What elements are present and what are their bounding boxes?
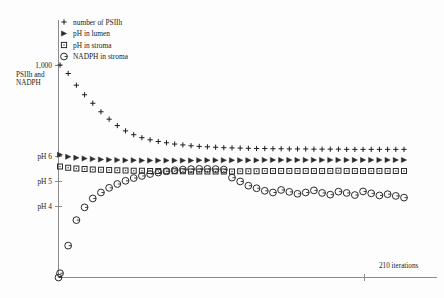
marker-triangle-right	[279, 157, 284, 162]
legend-item-0: number of PSIIh	[61, 18, 122, 27]
marker-triangle-right	[238, 158, 243, 163]
marker-circle	[311, 187, 318, 194]
marker-plus	[98, 109, 103, 114]
legend-label-2: pH in stroma	[73, 41, 112, 50]
marker-triangle-right	[344, 157, 349, 162]
marker-square	[279, 169, 284, 174]
marker-circle	[360, 188, 367, 195]
marker-plus	[328, 147, 333, 152]
marker-square	[115, 168, 120, 173]
marker-triangle-right	[336, 157, 341, 162]
marker-square	[230, 169, 235, 174]
marker-circle	[229, 174, 236, 181]
y-tick-label-1: pH 6	[37, 152, 52, 161]
marker-triangle-right	[369, 157, 374, 162]
marker-square	[328, 169, 333, 174]
marker-plus	[401, 147, 406, 152]
marker-plus	[238, 145, 243, 150]
marker-circle	[368, 190, 375, 197]
marker-plus	[393, 147, 398, 152]
marker-plus	[205, 144, 210, 149]
marker-triangle-right	[172, 158, 177, 163]
scatter-chart: 1,000pH 6pH 5pH 4 PSIIh and NADPH 210 it…	[0, 0, 444, 298]
marker-plus	[319, 147, 324, 152]
marker-triangle-right	[221, 158, 226, 163]
marker-triangle-right	[74, 155, 79, 160]
marker-circle	[73, 217, 80, 224]
marker-square	[98, 167, 103, 172]
marker-square	[369, 169, 374, 174]
marker-circle	[130, 175, 137, 182]
marker-square	[246, 169, 251, 174]
marker-plus	[336, 147, 341, 152]
marker-triangle-right	[352, 157, 357, 162]
marker-square	[385, 169, 390, 174]
marker-circle	[245, 182, 252, 189]
marker-triangle-right	[139, 158, 144, 163]
marker-square	[344, 169, 349, 174]
marker-triangle-right	[213, 158, 218, 163]
marker-circle	[384, 191, 391, 198]
marker-plus	[61, 19, 66, 24]
y-tick-label-3: pH 4	[37, 202, 52, 211]
marker-plus	[279, 146, 284, 151]
marker-plus	[213, 145, 218, 150]
marker-plus	[344, 147, 349, 152]
marker-circle	[98, 189, 105, 196]
marker-triangle-right	[319, 157, 324, 162]
marker-square	[90, 167, 95, 172]
legend-item-2: pH in stroma	[61, 41, 112, 50]
marker-circle	[351, 192, 358, 199]
y-tick-label-2: pH 5	[37, 177, 52, 186]
marker-plus	[74, 83, 79, 88]
marker-plus	[131, 132, 136, 137]
marker-triangle-right	[262, 157, 267, 162]
marker-plus	[229, 145, 234, 150]
marker-triangle-right	[82, 156, 87, 161]
marker-circle	[81, 204, 88, 211]
marker-triangle-right	[246, 158, 251, 163]
marker-triangle-right	[66, 154, 71, 159]
marker-square	[311, 169, 316, 174]
marker-square	[254, 169, 259, 174]
marker-circle	[57, 270, 64, 277]
marker-triangle-right	[107, 157, 112, 162]
marker-triangle-right	[303, 157, 308, 162]
marker-plus	[82, 92, 87, 97]
marker-square	[287, 169, 292, 174]
marker-plus	[172, 141, 177, 146]
marker-plus	[115, 123, 120, 128]
marker-triangle-right	[98, 157, 103, 162]
marker-square	[66, 165, 71, 170]
series-nadph-in-stroma	[57, 166, 408, 277]
marker-circle	[61, 53, 68, 60]
marker-triangle-right	[131, 158, 136, 163]
legend-item-3: NADPH in stroma	[61, 52, 129, 61]
marker-square	[303, 169, 308, 174]
marker-circle	[253, 185, 260, 192]
chart-root: 1,000pH 6pH 5pH 4 PSIIh and NADPH 210 it…	[0, 0, 444, 298]
marker-circle	[286, 188, 293, 195]
marker-triangle-right	[156, 158, 161, 163]
marker-plus	[66, 71, 71, 76]
marker-triangle-right	[295, 157, 300, 162]
marker-plus	[156, 139, 161, 144]
marker-plus	[352, 147, 357, 152]
marker-square	[270, 169, 275, 174]
marker-circle	[114, 181, 121, 188]
marker-plus	[385, 147, 390, 152]
y-axis-caption-line1: PSIIh and	[16, 71, 45, 79]
marker-square	[61, 42, 66, 47]
marker-circle	[376, 192, 383, 199]
marker-plus	[123, 128, 128, 133]
marker-plus	[369, 147, 374, 152]
marker-triangle-right	[188, 158, 193, 163]
marker-circle	[270, 189, 277, 196]
legend-label-1: pH in lumen	[73, 29, 110, 38]
marker-square	[320, 169, 325, 174]
marker-circle	[343, 190, 350, 197]
marker-triangle-right	[147, 158, 152, 163]
marker-square	[402, 169, 407, 174]
marker-circle	[319, 190, 326, 197]
series-ph-in-stroma	[58, 164, 407, 174]
